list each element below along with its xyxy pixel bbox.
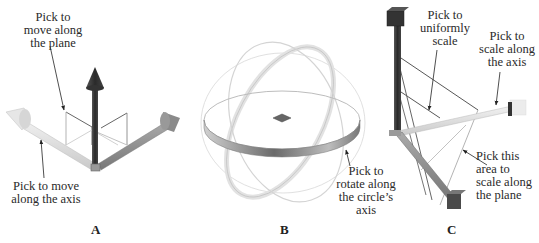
callout-move-plane: Pick to move along the plane [10, 11, 96, 50]
translate-axis-y[interactable] [86, 67, 104, 168]
scale-axis-y[interactable] [387, 7, 409, 134]
callout-rotate-ring: Pick to rotate along the circle’s axis [330, 165, 402, 217]
translate-center-handle[interactable] [91, 164, 100, 171]
scale-axis-x[interactable] [398, 100, 526, 136]
translate-axis-x[interactable] [6, 108, 96, 170]
panel-label-b: B [280, 222, 289, 238]
panel-label-a: A [91, 222, 100, 238]
panel-label-c: C [447, 222, 456, 238]
leader-line [496, 72, 500, 105]
callout-uniform-scale: Pick to uniformly scale [415, 9, 475, 48]
leader-line [429, 50, 437, 110]
clipped-text-top [30, 0, 170, 2]
leader-line [50, 46, 64, 110]
callout-scale-axis: Pick to scale along the axis [474, 30, 539, 69]
callout-scale-plane: Pick this area to scale along the plane [476, 150, 539, 202]
callout-move-axis: Pick to move along the axis [2, 180, 90, 206]
translate-gizmo [6, 46, 180, 178]
rotate-ring-z[interactable] [204, 91, 360, 157]
scale-center-handle[interactable] [389, 130, 401, 136]
rotate-center-handle[interactable] [273, 114, 291, 122]
leader-line [41, 140, 44, 178]
